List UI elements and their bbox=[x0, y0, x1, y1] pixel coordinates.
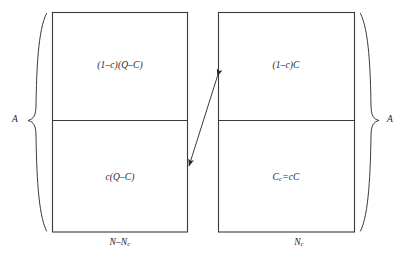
left-box-width-label: N–Nc bbox=[110, 238, 131, 249]
left-height-label-A: A bbox=[12, 115, 18, 125]
right-brace bbox=[361, 14, 380, 232]
right-box-lower-cell-label: Cc=cC bbox=[273, 173, 300, 184]
left-brace bbox=[28, 14, 47, 232]
right-box-upper-cell-label: (1–c)C bbox=[273, 61, 300, 71]
left-rectangle-outline bbox=[53, 13, 188, 233]
right-box-width-subscript: c bbox=[301, 240, 304, 248]
diagram-canvas: (1–c)(Q–C) c(Q–C) (1–c)C Cc=cC N–Nc Nc A… bbox=[0, 0, 405, 259]
left-box-width-subscript: c bbox=[127, 240, 130, 248]
left-box-upper-cell-label: (1–c)(Q–C) bbox=[97, 61, 142, 71]
right-rectangle-outline bbox=[219, 13, 355, 233]
right-box-width-label: Nc bbox=[294, 238, 304, 249]
exchange-arrow bbox=[189, 76, 218, 166]
diagram-vector-layer bbox=[0, 0, 405, 259]
left-box-lower-cell-label: c(Q–C) bbox=[105, 173, 134, 183]
right-height-label-A: A bbox=[387, 115, 393, 125]
